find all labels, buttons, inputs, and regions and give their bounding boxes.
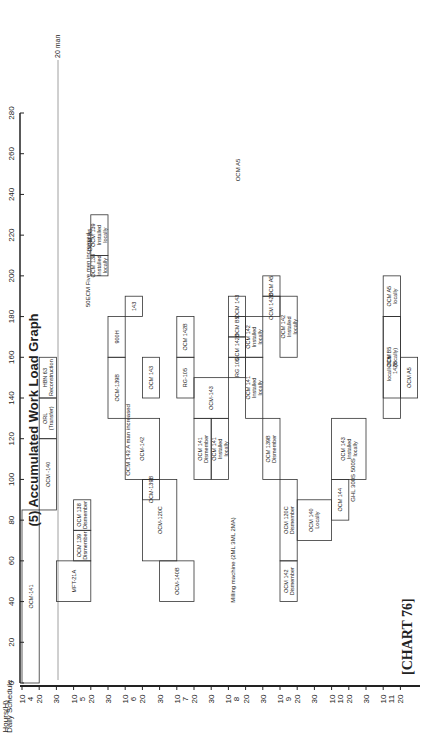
month-label: 11 bbox=[387, 694, 396, 703]
schedule-axis-label: Daily Schedule bbox=[5, 679, 14, 733]
month-label: 6 bbox=[129, 696, 138, 701]
work-block-label: OCM 142B bbox=[182, 323, 188, 351]
x-tick-label: 30 bbox=[310, 694, 319, 703]
chart-title: (5) Accumulated Work Load Graph bbox=[26, 313, 41, 526]
work-block-label: MFT-21A bbox=[71, 570, 77, 593]
x-tick-label: 20 bbox=[138, 694, 147, 703]
y-tick-label: 60 bbox=[7, 556, 16, 565]
month-label: 4 bbox=[26, 696, 35, 701]
work-block-label: OCM-143 bbox=[208, 386, 214, 410]
work-block-label: OCM A5 bbox=[406, 367, 412, 388]
work-block-label: OCM-139B bbox=[114, 374, 120, 402]
annotation: OCM 143 A man increased bbox=[125, 404, 131, 476]
x-tick-label: 30 bbox=[259, 694, 268, 703]
x-tick-label: 30 bbox=[52, 694, 61, 703]
work-block-label: OCM 141Installedlocally bbox=[245, 376, 263, 400]
work-block-label: OCM 142Installedlocally bbox=[245, 325, 263, 349]
y-tick-label: 200 bbox=[7, 269, 16, 283]
x-tick-label: 30 bbox=[104, 694, 113, 703]
work-block-label: OCM 143Installedlocally bbox=[340, 437, 358, 461]
y-tick-label: 120 bbox=[7, 431, 16, 445]
y-tick-label: 100 bbox=[7, 472, 16, 486]
chart-caption: [CHART 76] bbox=[400, 598, 415, 675]
x-tick-label: 20 bbox=[293, 694, 302, 703]
work-block-label: OCM-141 bbox=[28, 585, 34, 609]
annotation: OCM B5 bbox=[87, 228, 93, 252]
work-block-label: OCM A5 bbox=[268, 276, 274, 297]
work-block-label: ORL(Transfer) bbox=[42, 406, 54, 430]
work-block-label: RG-105 bbox=[182, 368, 188, 387]
x-tick-label: 30 bbox=[207, 694, 216, 703]
y-tick-label: 260 bbox=[7, 146, 16, 160]
month-label: 9 bbox=[284, 696, 293, 701]
x-tick-label: 30 bbox=[362, 694, 371, 703]
work-block-label: OCM 141Installedlocally bbox=[211, 437, 229, 461]
work-blocks: OCM-141OCM -140ORL(Transfer)HBN 63Recons… bbox=[22, 158, 418, 683]
work-block-label: OCM 138Dismember bbox=[76, 501, 88, 529]
x-tick-label: 20 bbox=[345, 694, 354, 703]
x-tick-label: 20 bbox=[87, 694, 96, 703]
x-tick-label: 20 bbox=[35, 694, 44, 703]
work-block-label: OCM 142Dismember bbox=[283, 567, 295, 595]
x-tick-label: 20 bbox=[396, 694, 405, 703]
x-tick-label: 30 bbox=[156, 694, 165, 703]
work-block-label: OCM 142Installedlocally bbox=[280, 315, 298, 339]
schedule-axis: 1020301020301020301020301020301020301020… bbox=[18, 686, 420, 703]
x-tick-label: 20 bbox=[190, 694, 199, 703]
work-block-label: OCM -140 bbox=[45, 462, 51, 487]
work-block-label: OCM 138Installedlocally bbox=[90, 254, 108, 278]
annotation: Milling machine (2ML 3ML 2MA) bbox=[230, 517, 236, 603]
work-block-label: OCM 143 bbox=[234, 295, 240, 319]
y-tick-label: 80 bbox=[7, 515, 16, 524]
y-tick-label: 220 bbox=[7, 228, 16, 242]
work-block-label: OCM 141Dismember bbox=[197, 435, 209, 463]
work-block-label: OCM-140B bbox=[174, 567, 180, 595]
y-tick-label: 40 bbox=[7, 597, 16, 606]
work-block-label: OCM 120CDismember bbox=[283, 506, 295, 534]
work-block-label: OCM-142 bbox=[139, 437, 145, 461]
work-block-label: OCM 140Locally bbox=[308, 508, 320, 532]
work-block-label: 900H bbox=[114, 330, 120, 343]
y-tick-label: 240 bbox=[7, 187, 16, 201]
month-label: 7 bbox=[181, 696, 190, 701]
y-tick-label: 280 bbox=[7, 106, 16, 120]
month-label: 10 bbox=[336, 694, 345, 703]
hours-axis: 020406080100120140160180200220240260280 bbox=[7, 106, 24, 685]
y-tick-label: 140 bbox=[7, 391, 16, 405]
annotation: GHL 300S 500S bbox=[350, 458, 356, 501]
y-tick-label: 160 bbox=[7, 350, 16, 364]
man-reference-label: 20 man bbox=[54, 35, 61, 58]
month-label: 5 bbox=[78, 696, 87, 701]
work-block-label: OCM 143 bbox=[148, 366, 154, 390]
work-block-label: OCM B5(locally) bbox=[386, 347, 398, 368]
y-tick-label: 180 bbox=[7, 309, 16, 323]
x-tick-label: 20 bbox=[242, 694, 251, 703]
work-block-label: OCM 139Installedlocally bbox=[90, 223, 108, 247]
work-block-label: OCM-120C bbox=[157, 506, 163, 534]
work-block-label: HBN 63Reconstruction bbox=[42, 359, 54, 396]
work-block-label: OCM 139BDismember bbox=[265, 435, 277, 463]
y-tick-label: 20 bbox=[7, 637, 16, 646]
month-label: 8 bbox=[232, 696, 241, 701]
work-block-label: OCM 139Dismember bbox=[76, 531, 88, 559]
work-block-label: OCM B5 bbox=[234, 316, 240, 337]
work-load-chart: (5) Accumulated Work Load Graph [CHART 7… bbox=[0, 0, 423, 733]
work-block-label: OCM A5locally bbox=[386, 286, 398, 307]
annotation: OCM A5 bbox=[235, 158, 241, 181]
work-block-label: 143 bbox=[131, 302, 137, 311]
work-block-label: OCM 144 bbox=[337, 488, 343, 512]
